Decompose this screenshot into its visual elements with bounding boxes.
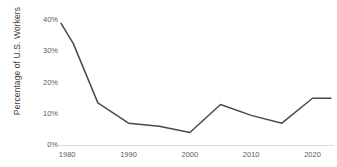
data-series-line [61, 23, 331, 132]
line-chart: Percentage of U.S. Workers 0%10%20%30%40… [0, 0, 337, 167]
plot-area [0, 0, 337, 167]
